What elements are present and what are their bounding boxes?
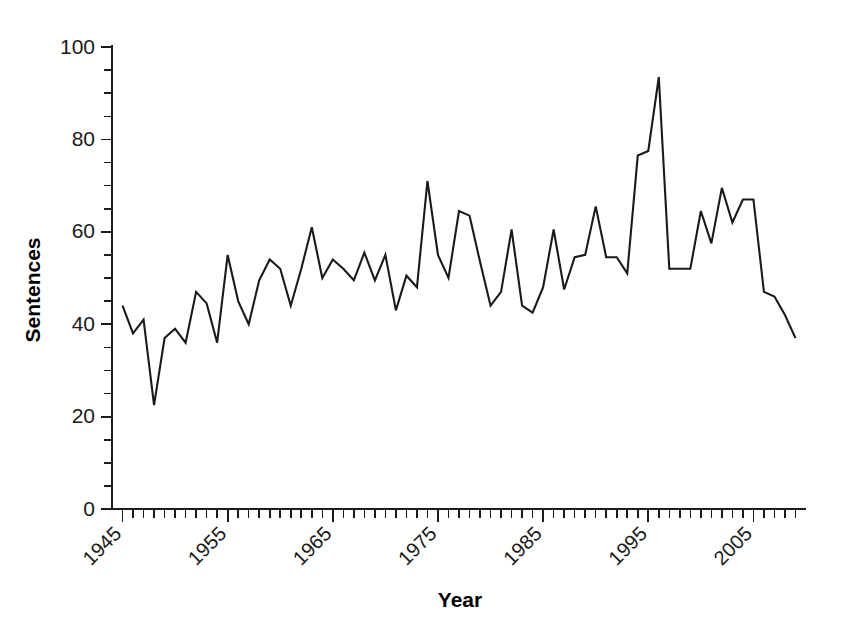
y-tick-label: 100	[60, 35, 95, 58]
y-tick-label: 0	[83, 497, 95, 520]
chart-plot-area: 020406080100 194519551965197519851995200…	[0, 0, 844, 634]
x-axis-title: Year	[438, 588, 482, 611]
x-tick-label: 1975	[394, 522, 441, 569]
x-tick-label: 1965	[289, 522, 336, 569]
y-tick-label: 20	[72, 404, 95, 427]
x-tick-label: 2005	[709, 522, 756, 569]
x-axis: 1945195519651975198519952005	[78, 509, 806, 569]
y-axis-title: Sentences	[21, 237, 44, 342]
y-tick-label: 60	[72, 219, 95, 242]
y-axis: 020406080100	[60, 35, 112, 520]
x-tick-label: 1995	[604, 522, 651, 569]
data-series-sentences	[123, 77, 796, 405]
series-line-sentences	[123, 77, 796, 405]
line-chart-figure: 020406080100 194519551965197519851995200…	[0, 0, 844, 634]
y-tick-label: 40	[72, 312, 95, 335]
x-tick-label: 1955	[183, 522, 230, 569]
x-tick-label: 1985	[499, 522, 546, 569]
x-tick-label: 1945	[78, 522, 125, 569]
y-tick-label: 80	[72, 127, 95, 150]
